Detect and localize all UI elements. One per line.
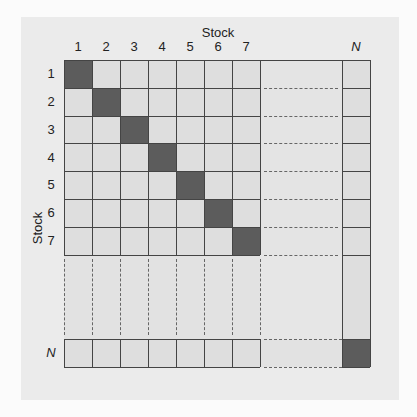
grid-line bbox=[370, 60, 371, 367]
elision-line bbox=[264, 88, 338, 89]
grid-line bbox=[342, 88, 370, 89]
grid-line bbox=[342, 367, 370, 368]
elision-line bbox=[120, 259, 121, 335]
diagonal-cell-1 bbox=[64, 60, 92, 88]
diagonal-cell-5 bbox=[176, 171, 204, 199]
grid-line bbox=[64, 60, 370, 61]
grid-line bbox=[64, 171, 260, 172]
grid-line bbox=[64, 143, 260, 144]
matrix-block-right-col bbox=[342, 60, 370, 255]
grid-line bbox=[260, 339, 261, 367]
grid-line bbox=[204, 339, 205, 367]
grid-line bbox=[120, 339, 121, 367]
elision-line bbox=[264, 116, 338, 117]
elision-line bbox=[148, 259, 149, 335]
elided-region-right-col bbox=[342, 255, 370, 339]
elision-line bbox=[264, 171, 338, 172]
elision-line bbox=[264, 255, 338, 256]
x-axis-title: Stock bbox=[193, 26, 243, 40]
grid-line bbox=[120, 60, 121, 255]
elision-line bbox=[264, 227, 338, 228]
col-label-n: N bbox=[342, 40, 370, 54]
grid-line bbox=[342, 199, 370, 200]
row-label-2: 2 bbox=[44, 95, 58, 109]
grid-line bbox=[176, 60, 177, 255]
col-label-6: 6 bbox=[204, 40, 232, 54]
elision-line bbox=[264, 199, 338, 200]
grid-line bbox=[92, 339, 93, 367]
elided-region-right bbox=[260, 60, 342, 255]
elision-line bbox=[264, 339, 342, 340]
elision-line bbox=[264, 143, 338, 144]
row-label-6: 6 bbox=[44, 206, 58, 220]
grid-line bbox=[148, 339, 149, 367]
grid-line bbox=[342, 255, 370, 256]
elided-region-bottom bbox=[64, 255, 260, 339]
grid-line bbox=[342, 171, 370, 172]
diagonal-cell-7 bbox=[232, 227, 260, 255]
elision-line bbox=[264, 367, 342, 368]
col-label-3: 3 bbox=[120, 40, 148, 54]
grid-line bbox=[260, 60, 261, 255]
grid-line bbox=[232, 60, 233, 255]
elision-line bbox=[92, 259, 93, 335]
elision-line bbox=[176, 259, 177, 335]
elided-region-center bbox=[260, 255, 342, 339]
col-label-1: 1 bbox=[64, 40, 92, 54]
grid-line bbox=[342, 116, 370, 117]
row-label-3: 3 bbox=[44, 123, 58, 137]
diagonal-cell-2 bbox=[92, 88, 120, 116]
elision-line bbox=[260, 259, 261, 335]
grid-line bbox=[342, 60, 343, 367]
y-axis-title: Stock bbox=[31, 203, 45, 253]
grid-line bbox=[64, 339, 65, 367]
grid-line bbox=[148, 60, 149, 255]
diagonal-cell-n bbox=[342, 339, 370, 367]
diagonal-cell-3 bbox=[120, 116, 148, 143]
grid-line bbox=[64, 199, 260, 200]
elided-region-bottom-right bbox=[260, 339, 342, 367]
row-label-1: 1 bbox=[44, 67, 58, 81]
col-label-4: 4 bbox=[148, 40, 176, 54]
grid-line bbox=[64, 255, 260, 256]
row-label-n: N bbox=[44, 346, 58, 360]
grid-line bbox=[64, 88, 260, 89]
grid-line bbox=[342, 227, 370, 228]
grid-line bbox=[64, 116, 260, 117]
grid-line bbox=[64, 367, 260, 368]
diagonal-cell-6 bbox=[204, 199, 232, 227]
grid-line bbox=[92, 60, 93, 255]
row-label-5: 5 bbox=[44, 178, 58, 192]
grid-line bbox=[342, 339, 370, 340]
grid-line bbox=[64, 339, 260, 340]
elision-line bbox=[232, 259, 233, 335]
grid-line bbox=[232, 339, 233, 367]
grid-line bbox=[204, 60, 205, 255]
elision-line bbox=[64, 259, 65, 335]
col-label-7: 7 bbox=[232, 40, 260, 54]
grid-line bbox=[176, 339, 177, 367]
elision-line bbox=[204, 259, 205, 335]
col-label-2: 2 bbox=[92, 40, 120, 54]
grid-line bbox=[64, 227, 260, 228]
row-label-4: 4 bbox=[44, 151, 58, 165]
matrix-block-bottom-row bbox=[64, 339, 260, 367]
col-label-5: 5 bbox=[176, 40, 204, 54]
diagonal-cell-4 bbox=[148, 143, 176, 171]
row-label-7: 7 bbox=[44, 234, 58, 248]
grid-line bbox=[64, 60, 65, 255]
grid-line bbox=[342, 143, 370, 144]
